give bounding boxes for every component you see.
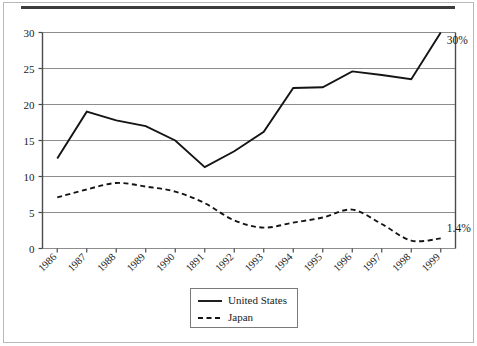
chart-legend: United States Japan — [190, 288, 298, 328]
x-tick-label-1986: 1986 — [36, 251, 59, 274]
x-tick-label-1997: 1997 — [361, 251, 384, 274]
legend-swatch-solid-line-icon — [197, 296, 223, 306]
x-tick-label-1992: 1992 — [213, 251, 236, 274]
x-tick-label-1891: 1891 — [184, 251, 207, 274]
chart-figure: 051015202530 198619871988198919901891199… — [0, 0, 477, 346]
y-tick-label-15: 15 — [24, 135, 36, 147]
x-tick-label-1987: 1987 — [66, 251, 89, 274]
legend-item-japan[interactable]: Japan — [197, 309, 292, 326]
x-tick-label-1990: 1990 — [154, 251, 177, 274]
y-tick-label-10: 10 — [24, 171, 36, 183]
y-tick-label-20: 20 — [24, 99, 36, 111]
x-tick-label-1994: 1994 — [272, 251, 295, 274]
y-tick-label-5: 5 — [29, 207, 35, 219]
x-axis-tick-labels: 1986198719881989199018911992199319941995… — [36, 249, 442, 274]
data-annotations: 30%1.4% — [447, 34, 471, 235]
legend-label-united-states: United States — [228, 295, 287, 306]
x-tick-label-1996: 1996 — [331, 251, 354, 274]
data-series — [57, 33, 441, 242]
annotation-30: 30% — [447, 34, 469, 46]
series-line-united-states — [57, 33, 441, 168]
x-tick-label-1999: 1999 — [420, 251, 443, 274]
x-tick-label-1998: 1998 — [390, 251, 413, 274]
y-axis-tick-labels: 051015202530 — [24, 27, 43, 255]
annotation-14: 1.4% — [447, 222, 471, 234]
y-tick-label-0: 0 — [29, 243, 35, 255]
legend-swatch-dashed-line-icon — [197, 313, 223, 323]
x-tick-label-1993: 1993 — [243, 251, 266, 274]
y-tick-label-30: 30 — [24, 27, 36, 39]
x-tick-label-1988: 1988 — [95, 251, 118, 274]
legend-label-japan: Japan — [228, 312, 253, 323]
y-tick-label-25: 25 — [24, 63, 36, 75]
x-tick-label-1989: 1989 — [125, 251, 148, 274]
x-tick-label-1995: 1995 — [302, 251, 325, 274]
legend-item-united-states[interactable]: United States — [197, 292, 292, 309]
